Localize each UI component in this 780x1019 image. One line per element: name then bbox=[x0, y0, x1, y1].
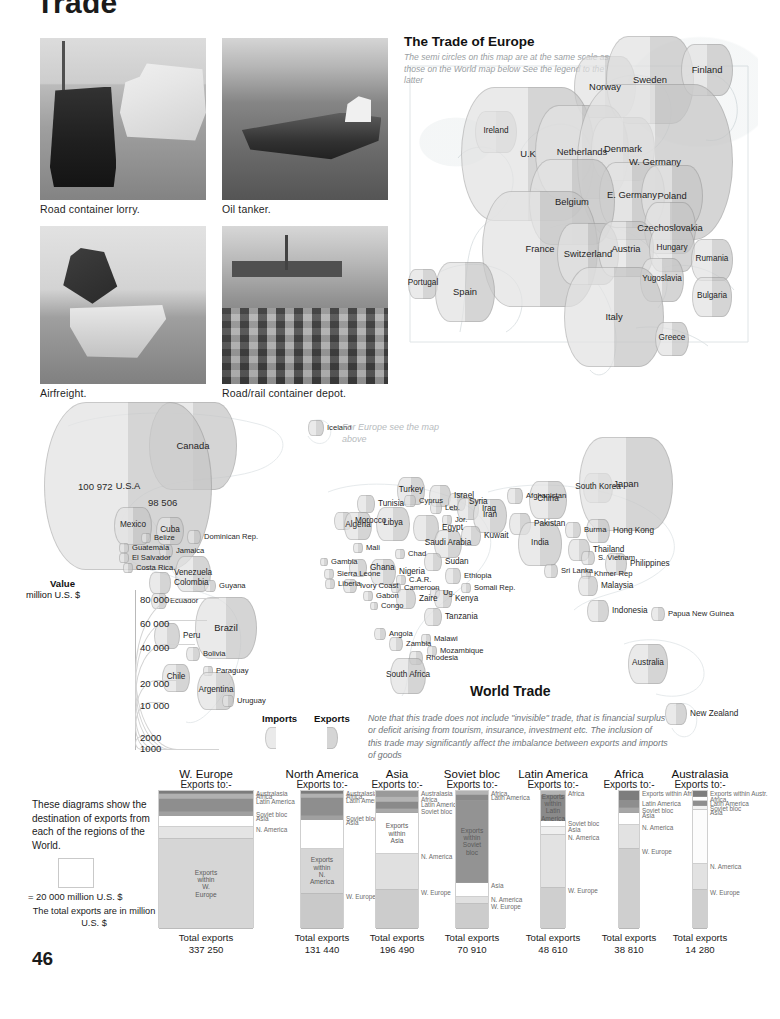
trade-symbol-uruguay[interactable] bbox=[222, 695, 234, 707]
trade-symbol-el-salvador[interactable] bbox=[119, 553, 129, 563]
country-label: New Zealand bbox=[690, 710, 738, 719]
bar-stack: AfricaExportswithinLatinAmericaSoviet bl… bbox=[540, 790, 566, 928]
bar-column-w-europe[interactable]: W. EuropeExports to:-AustralasiaAfricaLa… bbox=[158, 790, 254, 928]
bar-segment[interactable]: Latin America bbox=[619, 801, 639, 808]
trade-symbol-sudan[interactable] bbox=[424, 553, 442, 571]
trade-symbol-sierra-leone[interactable] bbox=[324, 569, 334, 579]
bar-segment[interactable]: W. Europe bbox=[456, 904, 488, 929]
trade-symbol-indonesia[interactable] bbox=[587, 600, 609, 622]
country-label: U.K bbox=[520, 149, 536, 159]
bar-column-exports-to-label: Exports to:- bbox=[286, 779, 359, 790]
photo-block-tanker: Oil tanker. bbox=[222, 38, 388, 215]
trade-symbol-congo[interactable] bbox=[370, 602, 378, 610]
bar-segment[interactable]: Latin America bbox=[301, 798, 343, 816]
bar-segment[interactable]: W. Europe bbox=[541, 888, 565, 929]
bar-column-africa[interactable]: AfricaExports to:-Exports within AfricaL… bbox=[618, 790, 640, 928]
trade-symbol-iceland[interactable] bbox=[308, 420, 324, 436]
bar-stack: AustralasiaAfricaLatin AmericaSoviet blo… bbox=[300, 790, 344, 928]
bar-segment[interactable]: N. America bbox=[619, 825, 639, 848]
trade-symbol-chad[interactable] bbox=[395, 549, 405, 559]
trade-symbol-somali-rep[interactable] bbox=[461, 583, 471, 593]
bar-column-australasia[interactable]: AustralasiaExports to:-Exports within Au… bbox=[692, 790, 708, 928]
bar-column-soviet-bloc[interactable]: Soviet blocExports to:-AfricaLatin Ameri… bbox=[455, 790, 489, 928]
europe-trade-map[interactable]: The Trade of Europe The semi circles on … bbox=[400, 32, 758, 384]
export-half-circle bbox=[515, 488, 523, 504]
bar-segment[interactable]: N. America bbox=[456, 897, 488, 904]
export-half-circle bbox=[658, 607, 665, 621]
bar-segment[interactable]: N. America bbox=[541, 835, 565, 887]
world-trade-note: Note that this trade does not include "i… bbox=[368, 712, 668, 762]
country-label: Tunisia bbox=[378, 500, 404, 509]
crane-mast-shape bbox=[62, 41, 65, 96]
page-title: Trade bbox=[36, 0, 118, 20]
trade-symbol-belize[interactable] bbox=[141, 533, 151, 543]
country-label: India bbox=[531, 539, 549, 548]
bar-segment[interactable]: N. America bbox=[693, 864, 707, 890]
bar-segment-label: Soviet bloc bbox=[421, 809, 452, 816]
bar-segment[interactable]: Asia bbox=[541, 827, 565, 835]
bar-segment[interactable]: Latin America bbox=[376, 802, 418, 809]
bar-column-title: AsiaExports to:- bbox=[371, 768, 422, 790]
country-label: Netherlands bbox=[557, 147, 608, 157]
country-label: Ireland bbox=[483, 127, 508, 136]
trade-symbol-sri-lanka[interactable] bbox=[544, 564, 558, 578]
bar-total-label: Total exports bbox=[179, 932, 233, 944]
trade-symbol-ethiopia[interactable] bbox=[445, 568, 461, 584]
import-half-circle bbox=[389, 637, 396, 651]
bar-segment[interactable]: Asia bbox=[456, 883, 488, 897]
trade-symbol-zambia[interactable] bbox=[389, 637, 403, 651]
bar-column-latin-america[interactable]: Latin AmericaExports to:-AfricaExportswi… bbox=[540, 790, 566, 928]
bar-segment[interactable]: W. Europe bbox=[376, 890, 418, 929]
trade-symbol-dominican-rep[interactable] bbox=[187, 530, 201, 544]
bar-segment[interactable]: N. America bbox=[159, 827, 253, 839]
trade-symbol-costa-rica[interactable] bbox=[123, 563, 133, 573]
country-label: Sweden bbox=[633, 75, 667, 85]
value-tick-10000: 10 000 bbox=[140, 700, 169, 711]
country-label: Congo bbox=[381, 602, 403, 610]
bar-total-value: 131 440 bbox=[295, 944, 349, 956]
bar-segment[interactable]: ExportswithinSovietbloc bbox=[456, 801, 488, 884]
country-label: Poland bbox=[657, 191, 686, 201]
trade-symbol-gambia[interactable] bbox=[320, 558, 328, 566]
bar-segment[interactable]: W. Europe bbox=[693, 890, 707, 929]
trade-symbol-new-zealand[interactable] bbox=[665, 703, 687, 725]
bar-segment[interactable]: ExportswithinW.Europe bbox=[159, 839, 253, 929]
trade-symbol-angola[interactable] bbox=[374, 628, 386, 640]
bar-segment[interactable]: ExportswithinN.America bbox=[301, 849, 343, 895]
trade-symbol-tanzania[interactable] bbox=[424, 608, 442, 626]
export-half-circle bbox=[400, 549, 405, 559]
trade-symbol-malaysia[interactable] bbox=[578, 576, 598, 596]
bar-segment[interactable]: W. Europe bbox=[619, 849, 639, 929]
usa-export-value: 98 506 bbox=[148, 497, 177, 508]
bar-segment[interactable]: Asia bbox=[301, 820, 343, 849]
bar-segment[interactable]: Asia bbox=[693, 810, 707, 864]
trade-symbol-guatemala[interactable] bbox=[119, 543, 129, 553]
bar-total-value: 196 490 bbox=[370, 944, 424, 956]
trade-symbol-cyprus[interactable] bbox=[404, 495, 416, 507]
trade-symbol-liberia[interactable] bbox=[325, 579, 335, 589]
bar-segment[interactable]: Exports within Africa bbox=[619, 791, 639, 801]
trade-symbol-tunisia[interactable] bbox=[357, 495, 375, 513]
country-label: Philippines bbox=[630, 560, 670, 569]
country-label: Somali Rep. bbox=[474, 584, 515, 592]
bar-segment[interactable]: N. America bbox=[376, 854, 418, 890]
bar-column-north-america[interactable]: North AmericaExports to:-AustralasiaAfri… bbox=[300, 790, 344, 928]
export-half-circle bbox=[316, 420, 324, 436]
atlas-page: Trade Road container lorry. Oil tanker. … bbox=[0, 0, 780, 1019]
trade-symbol-afghanistan[interactable] bbox=[507, 488, 523, 504]
bar-column-asia[interactable]: AsiaExports to:-AustralasiaAfricaLatin A… bbox=[375, 790, 419, 928]
bar-segment[interactable]: Asia bbox=[159, 816, 253, 827]
bar-segment[interactable]: W. Europe bbox=[301, 894, 343, 929]
bar-segment-label: W. Europe bbox=[421, 890, 451, 897]
bar-segment[interactable]: ExportswithinLatinAmerica bbox=[541, 795, 565, 821]
bar-total-exports: Total exports337 250 bbox=[179, 932, 233, 956]
country-label: W. Germany bbox=[629, 157, 681, 167]
trade-symbol-papua-new-guinea[interactable] bbox=[651, 607, 665, 621]
bar-segment[interactable]: Asia bbox=[619, 813, 639, 825]
trade-symbol-mali[interactable] bbox=[353, 543, 363, 553]
bar-segment[interactable]: ExportswithinAsia bbox=[376, 813, 418, 854]
bar-segment[interactable]: Latin America bbox=[159, 799, 253, 811]
bar-total-label: Total exports bbox=[673, 932, 727, 944]
country-label: Sri Lanka bbox=[561, 567, 593, 575]
trade-symbol-gabon[interactable] bbox=[363, 591, 373, 601]
